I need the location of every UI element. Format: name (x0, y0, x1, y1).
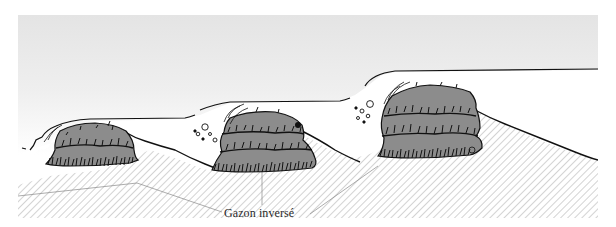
diagram-frame: Gazon inversé (0, 0, 616, 227)
gazon-inverse-label: Gazon inversé (224, 206, 294, 221)
cross-section-illustration (0, 0, 616, 227)
turf-mound-right (378, 82, 482, 158)
